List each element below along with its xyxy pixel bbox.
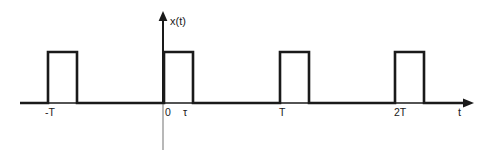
- tick-label-2T: 2T: [394, 107, 406, 118]
- pulse-train-figure: x(t) t -T 0 τ T 2T: [0, 0, 498, 155]
- x-axis-label: t: [458, 107, 461, 118]
- waveform-plot: [0, 0, 498, 155]
- tick-label-minus-T: -T: [45, 107, 55, 118]
- pulse-train-waveform: [20, 52, 466, 103]
- tick-label-T: T: [279, 107, 285, 118]
- tick-label-tau: τ: [183, 107, 187, 118]
- tick-label-zero: 0: [165, 107, 171, 118]
- up-arrow-icon: [159, 11, 168, 21]
- y-axis-label: x(t): [170, 16, 186, 27]
